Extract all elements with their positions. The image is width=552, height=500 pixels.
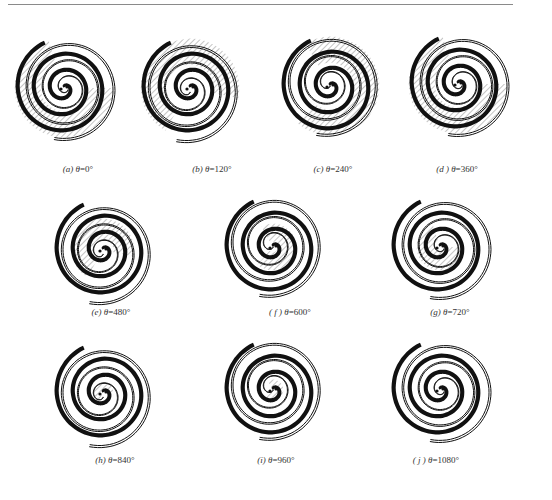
discharge-port-dot xyxy=(459,81,462,84)
caption-letter: (g) xyxy=(430,307,441,317)
caption-g: (g) θ=720° xyxy=(380,307,520,317)
caption-letter: (e) xyxy=(92,307,102,317)
caption-value: 480° xyxy=(113,307,130,317)
spiral-panel-f xyxy=(211,185,335,309)
caption-e: (e) θ=480° xyxy=(41,307,181,317)
scroll-spiral-diagram xyxy=(268,24,392,148)
discharge-port-dot xyxy=(274,244,277,247)
discharge-port-dot xyxy=(435,246,438,249)
discharge-port-dot xyxy=(453,83,456,86)
spiral-panel-h xyxy=(41,331,165,455)
discharge-port-dot xyxy=(274,387,277,390)
discharge-port-dot xyxy=(268,389,271,392)
discharge-port-dot xyxy=(441,387,444,390)
spiral-panel-c xyxy=(268,24,392,148)
top-rule xyxy=(8,4,513,5)
discharge-port-dot xyxy=(325,85,328,88)
discharge-port-dot xyxy=(441,244,444,247)
discharge-port-dot xyxy=(98,249,101,252)
spiral-panel-e xyxy=(41,188,165,312)
caption-letter: ( j ) xyxy=(413,455,426,465)
scroll-spiral-diagram xyxy=(41,331,165,455)
discharge-port-dot xyxy=(185,87,188,90)
discharge-port-dot xyxy=(59,87,62,90)
scroll-spiral-diagram xyxy=(378,185,502,309)
scroll-spiral-diagram xyxy=(378,328,502,452)
caption-f: ( f ) θ=600° xyxy=(220,307,360,317)
caption-value: 720° xyxy=(453,307,470,317)
caption-value: 240° xyxy=(335,164,352,174)
spiral-panel-i xyxy=(211,328,335,452)
spiral-panel-g xyxy=(378,185,502,309)
discharge-port-dot xyxy=(268,246,271,249)
scroll-spiral-diagram xyxy=(211,185,335,309)
caption-letter: (a) xyxy=(63,164,74,174)
discharge-port-dot xyxy=(104,247,107,250)
caption-d: (d ) θ=360° xyxy=(387,164,527,174)
caption-value: 960° xyxy=(278,455,295,465)
caption-i: (i) θ=960° xyxy=(206,455,346,465)
caption-value: 1080° xyxy=(438,455,460,465)
caption-c: (c) θ=240° xyxy=(263,164,403,174)
discharge-port-dot xyxy=(435,389,438,392)
fixed-scroll-wrap xyxy=(392,200,481,292)
caption-value: 0° xyxy=(85,164,93,174)
scroll-spiral-diagram xyxy=(211,328,335,452)
caption-b: (b) θ=120° xyxy=(142,164,282,174)
caption-letter: (i) xyxy=(257,455,266,465)
caption-value: 360° xyxy=(461,164,478,174)
caption-letter: (b) xyxy=(192,164,203,174)
caption-letter: (h) xyxy=(95,455,106,465)
scroll-spiral-diagram xyxy=(2,26,126,150)
spiral-panel-d xyxy=(396,22,520,146)
fixed-scroll-wrap xyxy=(225,343,314,435)
caption-h: (h) θ=840° xyxy=(45,455,185,465)
spiral-panel-a xyxy=(2,26,126,150)
caption-a: (a) θ=0° xyxy=(8,164,148,174)
discharge-port-dot xyxy=(331,83,334,86)
caption-letter: (c) xyxy=(314,164,324,174)
caption-j: ( j ) θ=1080° xyxy=(366,455,506,465)
spiral-panel-b xyxy=(128,26,252,150)
caption-value: 600° xyxy=(294,307,311,317)
discharge-port-dot xyxy=(104,390,107,393)
discharge-port-dot xyxy=(191,85,194,88)
scroll-spiral-diagram xyxy=(396,22,520,146)
scroll-spiral-diagram xyxy=(128,26,252,150)
scroll-spiral-diagram xyxy=(41,188,165,312)
discharge-port-dot xyxy=(98,392,101,395)
caption-value: 120° xyxy=(215,164,232,174)
caption-value: 840° xyxy=(118,455,135,465)
fixed-scroll-wrap xyxy=(225,200,314,292)
spiral-panel-j xyxy=(378,328,502,452)
discharge-port-dot xyxy=(65,85,68,88)
caption-letter: (d ) xyxy=(436,164,449,174)
caption-letter: ( f ) xyxy=(269,307,282,317)
fixed-scroll-wrap xyxy=(392,343,481,435)
